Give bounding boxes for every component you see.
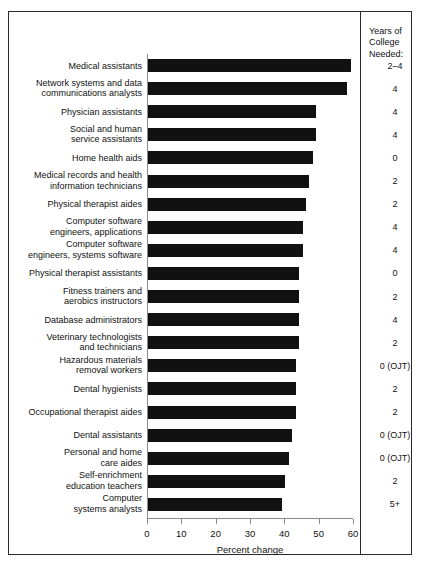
- years-value: 0 (OJT): [361, 430, 421, 440]
- category-label: Computer software engineers, application…: [0, 217, 142, 238]
- bar-row: Dental assistants: [148, 429, 292, 442]
- bar: [148, 290, 299, 303]
- bar: [148, 221, 303, 234]
- x-tick: [284, 519, 285, 524]
- years-value: 4: [361, 107, 421, 117]
- bar: [148, 128, 316, 141]
- bar-row: Personal and home care aides: [148, 452, 289, 465]
- category-label: Physical therapist aides: [0, 199, 142, 210]
- category-label: Computer software engineers, systems sof…: [0, 240, 142, 261]
- years-value: 2: [361, 338, 421, 348]
- bar: [148, 429, 292, 442]
- bar: [148, 498, 282, 511]
- y-axis-line: [147, 54, 148, 519]
- years-value: 2: [361, 384, 421, 394]
- bar: [148, 359, 296, 372]
- category-label: Dental hygienists: [0, 384, 142, 395]
- years-value: 4: [361, 130, 421, 140]
- years-value: 0: [361, 153, 421, 163]
- bar-row: Medical records and health information t…: [148, 175, 309, 188]
- x-axis-label: Percent change: [147, 544, 353, 555]
- bar-row: Self-enrichment education teachers: [148, 475, 285, 488]
- category-label: Physician assistants: [0, 106, 142, 117]
- bar: [148, 267, 299, 280]
- bar: [148, 336, 299, 349]
- bar-row: Network systems and data communications …: [148, 82, 347, 95]
- bar-row: Home health aids: [148, 151, 313, 164]
- years-value: 2: [361, 407, 421, 417]
- category-label: Fitness trainers and aerobics instructor…: [0, 286, 142, 307]
- bar: [148, 175, 309, 188]
- bar-row: Physical therapist assistants: [148, 267, 299, 280]
- years-of-college-panel: Years of College Needed: 2–4444022440242…: [361, 12, 411, 554]
- x-tick-label: 40: [269, 528, 299, 539]
- bar: [148, 406, 296, 419]
- bar: [148, 244, 303, 257]
- bar-row: Medical assistants: [148, 59, 351, 72]
- bar-row: Occupational therapist aides: [148, 406, 296, 419]
- category-label: Physical therapist assistants: [0, 268, 142, 279]
- bar: [148, 475, 285, 488]
- bar-row: Physician assistants: [148, 105, 316, 118]
- x-tick: [250, 519, 251, 524]
- years-value: 0 (OJT): [361, 361, 421, 371]
- years-value: 2–4: [361, 61, 421, 71]
- x-tick: [147, 519, 148, 524]
- x-tick: [319, 519, 320, 524]
- x-tick: [353, 519, 354, 524]
- bar-row: Fitness trainers and aerobics instructor…: [148, 290, 299, 303]
- years-value: 2: [361, 292, 421, 302]
- category-label: Self-enrichment education teachers: [0, 471, 142, 492]
- bar-row: Physical therapist aides: [148, 198, 306, 211]
- bar: [148, 382, 296, 395]
- bar: [148, 105, 316, 118]
- category-label: Medical assistants: [0, 60, 142, 71]
- years-value: 2: [361, 199, 421, 209]
- years-value: 5+: [361, 499, 421, 509]
- category-label: Medical records and health information t…: [0, 170, 142, 191]
- plot-area: Medical assistantsNetwork systems and da…: [147, 54, 353, 519]
- category-label: Network systems and data communications …: [0, 78, 142, 99]
- category-label: Occupational therapist aides: [0, 407, 142, 418]
- years-value: 0 (OJT): [361, 453, 421, 463]
- years-value: 4: [361, 245, 421, 255]
- category-label: Database administrators: [0, 314, 142, 325]
- bar-row: Database administrators: [148, 313, 299, 326]
- bar: [148, 452, 289, 465]
- bar-row: Computer software engineers, application…: [148, 221, 303, 234]
- category-label: Computer systems analysts: [0, 494, 142, 515]
- figure-frame: Medical assistantsNetwork systems and da…: [8, 11, 412, 555]
- bar-row: Hazardous materials removal workers: [148, 359, 296, 372]
- category-label: Home health aids: [0, 153, 142, 164]
- x-tick-label: 30: [235, 528, 265, 539]
- years-value: 4: [361, 84, 421, 94]
- years-value: 2: [361, 476, 421, 486]
- category-label: Personal and home care aides: [0, 448, 142, 469]
- bar: [148, 59, 351, 72]
- years-column-header: Years of College Needed:: [369, 26, 421, 60]
- bar: [148, 198, 306, 211]
- x-tick-label: 20: [201, 528, 231, 539]
- bar: [148, 151, 313, 164]
- bar: [148, 82, 347, 95]
- bar-row: Social and human service assistants: [148, 128, 316, 141]
- x-tick-label: 50: [304, 528, 334, 539]
- category-label: Dental assistants: [0, 430, 142, 441]
- years-value: 4: [361, 222, 421, 232]
- x-tick: [216, 519, 217, 524]
- category-label: Hazardous materials removal workers: [0, 355, 142, 376]
- bar-row: Computer systems analysts: [148, 498, 282, 511]
- bar: [148, 313, 299, 326]
- bar-row: Dental hygienists: [148, 382, 296, 395]
- x-tick: [181, 519, 182, 524]
- years-value: 4: [361, 315, 421, 325]
- years-value: 2: [361, 176, 421, 186]
- bar-row: Veterinary technologists and technicians: [148, 336, 299, 349]
- chart-panel: Medical assistantsNetwork systems and da…: [9, 12, 360, 554]
- bar-row: Computer software engineers, systems sof…: [148, 244, 303, 257]
- x-tick-label: 0: [132, 528, 162, 539]
- x-tick-label: 10: [166, 528, 196, 539]
- years-value: 0: [361, 268, 421, 278]
- category-label: Social and human service assistants: [0, 124, 142, 145]
- category-label: Veterinary technologists and technicians: [0, 332, 142, 353]
